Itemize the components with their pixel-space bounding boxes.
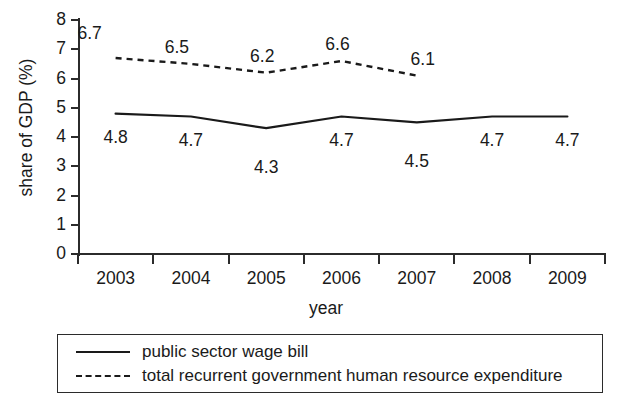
- y-axis-tick-1: [71, 224, 79, 226]
- x-axis-tick-label-2005: 2005: [229, 268, 304, 288]
- x-axis-tick-label-2009: 2009: [530, 268, 605, 288]
- x-axis-line: [78, 253, 606, 255]
- x-axis-tick-label-2006: 2006: [304, 268, 379, 288]
- x-axis-tick-5: [453, 255, 455, 264]
- x-axis-tick-label-2004: 2004: [153, 268, 228, 288]
- line-chart-figure: 012345678 2003200420052006200720082009 y…: [0, 0, 628, 417]
- chart-legend: public sector wage bill total recurrent …: [57, 334, 603, 393]
- legend-label-0: public sector wage bill: [142, 342, 308, 362]
- x-axis-title: year: [0, 298, 628, 319]
- data-label-wage-bill-2005: 4.3: [243, 158, 289, 176]
- data-label-recurrent-expenditure-2005: 6.2: [239, 47, 285, 65]
- x-axis-tick-6: [529, 255, 531, 264]
- y-axis-tick-7: [71, 48, 79, 50]
- data-label-wage-bill-2007: 4.5: [394, 152, 440, 170]
- data-label-recurrent-expenditure-2006: 6.6: [315, 35, 361, 53]
- data-label-recurrent-expenditure-2003: 6.7: [67, 24, 113, 42]
- x-axis-tick-0: [77, 255, 79, 264]
- y-axis-tick-label-0: 0: [26, 244, 66, 262]
- data-label-wage-bill-2006: 4.7: [319, 131, 365, 149]
- data-label-wage-bill-2009: 4.7: [544, 131, 590, 149]
- y-axis-tick-4: [71, 136, 79, 138]
- y-axis-title: share of GDP (%): [16, 18, 37, 238]
- legend-item-public-sector-wage-bill[interactable]: public sector wage bill: [74, 340, 308, 364]
- legend-label-1: total recurrent government human resourc…: [142, 366, 563, 386]
- x-axis-title-text: year: [309, 298, 343, 319]
- y-axis-tick-6: [71, 78, 79, 80]
- data-label-recurrent-expenditure-2004: 6.5: [154, 38, 200, 56]
- data-label-wage-bill-2004: 4.7: [168, 131, 214, 149]
- y-axis-tick-5: [71, 107, 79, 109]
- x-axis-tick-1: [152, 255, 154, 264]
- legend-item-total-recurrent-expenditure[interactable]: total recurrent government human resourc…: [74, 364, 563, 388]
- data-label-wage-bill-2008: 4.7: [469, 131, 515, 149]
- data-label-wage-bill-2003: 4.8: [93, 128, 139, 146]
- series-public-sector-wage-bill-line: [116, 114, 568, 129]
- data-label-recurrent-expenditure-2007: 6.1: [400, 50, 446, 68]
- x-axis-tick-7: [604, 255, 606, 264]
- x-axis-tick-4: [378, 255, 380, 264]
- legend-solid-line-icon: [74, 346, 132, 358]
- x-axis-tick-label-2003: 2003: [78, 268, 153, 288]
- x-axis-tick-3: [303, 255, 305, 264]
- legend-dashed-line-icon: [74, 370, 132, 382]
- y-axis-tick-3: [71, 165, 79, 167]
- y-axis-tick-8: [71, 19, 79, 21]
- y-axis-tick-2: [71, 195, 79, 197]
- x-axis-tick-label-2008: 2008: [454, 268, 529, 288]
- x-axis-tick-label-2007: 2007: [379, 268, 454, 288]
- x-axis-tick-2: [228, 255, 230, 264]
